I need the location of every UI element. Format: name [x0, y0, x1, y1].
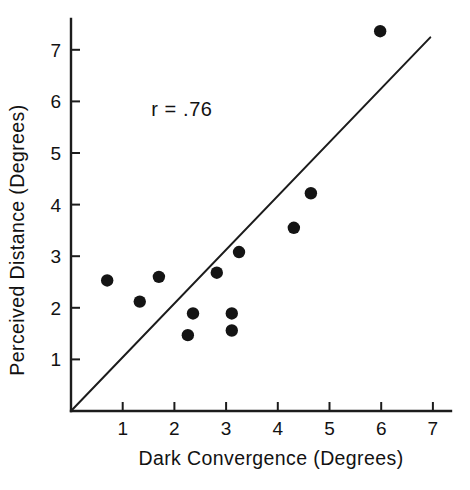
x-tick-label: 3	[221, 418, 232, 439]
x-tick-label: 6	[376, 418, 387, 439]
annotations: r = .76	[151, 98, 212, 120]
data-point	[153, 271, 165, 283]
data-points	[101, 25, 386, 341]
y-tick-label: 2	[50, 298, 61, 319]
plot-canvas: 12345671234567 r = .76 Dark Convergence …	[0, 0, 470, 490]
data-point	[226, 324, 238, 336]
y-tick-label: 1	[50, 349, 61, 370]
data-point	[182, 329, 194, 341]
y-tick-label: 7	[50, 40, 61, 61]
y-tick-label: 5	[50, 143, 61, 164]
correlation-annotation: r = .76	[151, 98, 212, 120]
data-point	[226, 307, 238, 319]
x-tick-label: 1	[117, 418, 128, 439]
tick-marks	[71, 50, 433, 411]
scatter-plot-figure: 12345671234567 r = .76 Dark Convergence …	[0, 0, 470, 490]
y-tick-label: 4	[50, 195, 61, 216]
x-tick-label: 7	[428, 418, 439, 439]
x-tick-label: 4	[273, 418, 284, 439]
data-point	[211, 267, 223, 279]
data-point	[374, 25, 386, 37]
data-point	[288, 222, 300, 234]
data-point	[134, 295, 146, 307]
x-axis-title: Dark Convergence (Degrees)	[138, 447, 403, 469]
data-point	[305, 187, 317, 199]
data-point	[101, 274, 113, 286]
data-point	[233, 246, 245, 258]
axis-titles: Dark Convergence (Degrees)Perceived Dist…	[6, 104, 404, 469]
data-point	[187, 307, 199, 319]
tick-labels: 12345671234567	[50, 40, 438, 439]
y-tick-label: 6	[50, 91, 61, 112]
identity-line	[71, 37, 430, 411]
x-tick-label: 2	[169, 418, 180, 439]
x-tick-label: 5	[324, 418, 335, 439]
y-axis-title: Perceived Distance (Degrees)	[6, 104, 28, 375]
y-tick-label: 3	[50, 246, 61, 267]
identity-line	[71, 37, 430, 411]
